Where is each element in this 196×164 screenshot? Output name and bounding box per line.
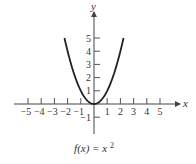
x-axis-label: x: [182, 97, 188, 109]
y-tick-label: 3: [86, 59, 91, 70]
y-tick-label: 4: [86, 46, 91, 57]
y-tick-label: 5: [86, 33, 91, 44]
x-tick-label: −3: [47, 106, 58, 117]
x-tick-label: 5: [158, 106, 163, 117]
x-tick-label: −4: [34, 106, 45, 117]
caption-exponent: 2: [110, 141, 114, 150]
y-tick-label: −1: [80, 112, 91, 123]
function-graph: −5−4−3−2−112345−112345 x y f(x) = x 2: [0, 0, 196, 164]
x-tick-label: 1: [105, 106, 110, 117]
x-tick-label: 2: [118, 106, 123, 117]
caption-text: f(x) = x: [74, 142, 107, 155]
y-axis-label: y: [90, 0, 96, 12]
x-tick-label: −5: [21, 106, 32, 117]
tick-labels: −5−4−3−2−112345−112345: [21, 33, 163, 123]
x-tick-label: 3: [131, 106, 136, 117]
function-caption: f(x) = x 2: [74, 141, 114, 155]
y-tick-label: 2: [86, 72, 91, 83]
y-tick-label: 1: [86, 85, 91, 96]
x-tick-label: 4: [144, 106, 149, 117]
x-tick-label: −2: [60, 106, 71, 117]
